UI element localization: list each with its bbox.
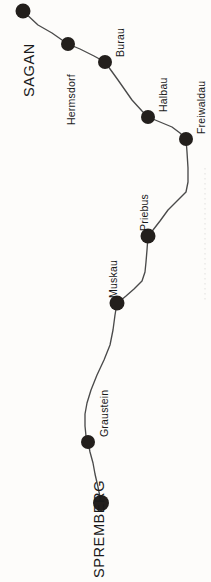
station-node[interactable] xyxy=(110,296,125,311)
station-node[interactable] xyxy=(61,37,75,51)
station-node[interactable] xyxy=(141,110,155,124)
route-line-group xyxy=(23,11,188,503)
station-node[interactable] xyxy=(93,495,109,511)
station-node[interactable] xyxy=(179,132,193,146)
station-node[interactable] xyxy=(98,55,112,69)
station-node[interactable] xyxy=(16,4,31,19)
station-node-group xyxy=(16,4,194,512)
route-map: SAGANHermsdorfBurauHalbauFreiwaldauPrieb… xyxy=(0,0,211,582)
route-line-svg xyxy=(0,0,211,582)
station-node[interactable] xyxy=(141,229,156,244)
station-node[interactable] xyxy=(81,435,95,449)
route-polyline xyxy=(23,11,188,503)
